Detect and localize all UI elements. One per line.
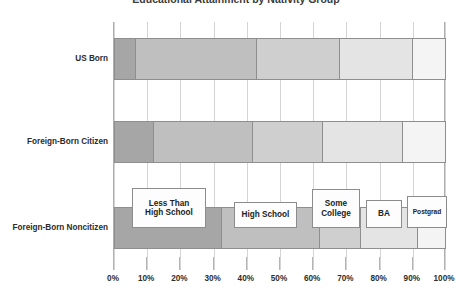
category-label-text: Foreign-Born Citizen (27, 137, 108, 146)
bar-us-born (114, 38, 446, 80)
category-label-text: US Born (75, 54, 108, 63)
plot-area: Less Than High School High School Some C… (113, 22, 445, 270)
callout-less-than-high-school: Less Than High School (132, 188, 206, 228)
x-tick-mark (146, 257, 147, 270)
x-tick-label: 10% (138, 274, 154, 283)
callout-line-2: College (321, 209, 351, 218)
callout-postgrad: Postgrad (407, 196, 447, 228)
x-tick-label: 100% (434, 274, 455, 283)
category-label-us-born: US Born (0, 54, 108, 63)
bar-segment-less-than-high-school (114, 38, 136, 80)
x-tick-mark (312, 257, 313, 270)
bar-segment-ba (323, 121, 403, 163)
callout-line-2: High School (145, 208, 193, 217)
x-axis: 0% 10% 20% 30% 40% 50% 60% 70% 80% 90% 1… (113, 270, 445, 301)
x-tick-mark (345, 257, 346, 270)
bar-segment-some-college (257, 38, 340, 80)
chart-title: Educational Attainment by Nativity Group (66, 0, 406, 5)
callout-line-1: Less Than (149, 199, 190, 208)
x-tick-label: 60% (304, 274, 320, 283)
x-tick-label: 30% (204, 274, 220, 283)
bar-foreign-born-citizen (114, 121, 446, 163)
category-label-foreign-born-noncitizen: Foreign-Born Noncitizen (0, 223, 108, 232)
x-tick-mark (379, 257, 380, 270)
x-tick-mark (444, 257, 445, 270)
bar-segment-high-school (154, 121, 254, 163)
callout-some-college: Some College (312, 189, 360, 228)
bar-segment-ba (340, 38, 413, 80)
bar-segment-some-college (253, 121, 323, 163)
bar-segment-postgrad (403, 121, 446, 163)
x-tick-label: 20% (171, 274, 187, 283)
category-label-text: Foreign-Born Noncitizen (12, 223, 108, 232)
callout-line-1: High School (242, 210, 290, 219)
x-tick-label: 50% (271, 274, 287, 283)
callout-high-school: High School (234, 202, 297, 228)
callout-line-1: Postgrad (413, 208, 442, 215)
x-tick-label: 90% (404, 274, 420, 283)
x-tick-label: 40% (238, 274, 254, 283)
x-tick-mark (213, 257, 214, 270)
category-label-foreign-born-citizen: Foreign-Born Citizen (0, 137, 108, 146)
callout-line-1: Some (325, 199, 347, 208)
callout-line-1: BA (378, 209, 390, 218)
bar-segment-high-school (136, 38, 257, 80)
callout-ba: BA (366, 200, 402, 228)
x-tick-mark (246, 257, 247, 270)
x-tick-mark (412, 257, 413, 270)
chart-container: Educational Attainment by Nativity Group (0, 0, 466, 301)
x-tick-label: 70% (337, 274, 353, 283)
x-tick-label: 80% (370, 274, 386, 283)
x-tick-mark (113, 257, 114, 270)
x-tick-mark (279, 257, 280, 270)
bar-segment-postgrad (413, 38, 446, 80)
x-tick-label: 0% (107, 274, 119, 283)
x-tick-mark (179, 257, 180, 270)
bar-segment-less-than-high-school (114, 121, 154, 163)
